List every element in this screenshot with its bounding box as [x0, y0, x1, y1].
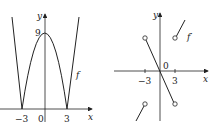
tick-neg3: −3 — [15, 114, 29, 124]
function-label-f: f — [75, 70, 81, 80]
y-axis-label: y — [36, 11, 43, 21]
open-point — [143, 36, 147, 40]
x-axis-label: x — [203, 74, 208, 84]
tick-0: 0 — [38, 114, 44, 124]
x-axis-label: x — [88, 112, 93, 122]
function-label-f-prime: f′ — [186, 32, 192, 42]
graph-f: y 9 f −3 0 3 x — [0, 11, 93, 124]
tick-0: 0 — [163, 61, 169, 71]
segment-left — [136, 106, 144, 121]
open-point — [173, 36, 177, 40]
tick-neg3: −3 — [138, 76, 152, 86]
tick-3: 3 — [64, 114, 70, 124]
tick-9: 9 — [35, 28, 41, 38]
segment-right — [176, 20, 185, 37]
diagram-canvas: y 9 f −3 0 3 x y f′ 0 −3 3 x — [0, 0, 213, 136]
graph-f-prime: y f′ 0 −3 3 x — [114, 10, 208, 121]
tick-3: 3 — [172, 76, 178, 86]
open-point — [173, 102, 177, 106]
open-point — [143, 102, 147, 106]
y-axis-label: y — [152, 10, 159, 20]
curve-f — [12, 17, 79, 109]
